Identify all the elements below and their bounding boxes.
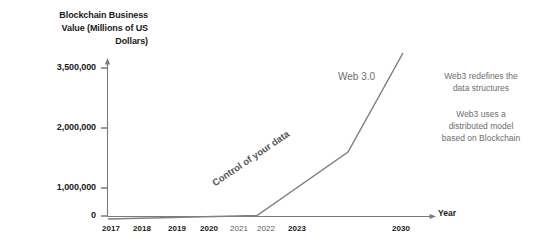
x-axis-title: Year <box>438 208 456 218</box>
chart-canvas: Blockchain Business Value (Millions of U… <box>0 0 540 247</box>
y-tick-label-3500000: 3,500,000 <box>18 62 96 72</box>
y-axis-ticks <box>101 68 107 216</box>
series-label-web30: Web 3.0 <box>338 71 375 82</box>
y-axis <box>105 58 110 217</box>
annotation-web3-distributed-model: Web3 uses a distributed model based on B… <box>425 108 537 144</box>
annotation-web3-redefines: Web3 redefines the data structures <box>425 70 537 94</box>
x-tick-label-2019: 2019 <box>168 224 186 233</box>
x-tick-label-2023: 2023 <box>288 224 306 233</box>
x-tick-label-2021: 2021 <box>230 224 248 233</box>
x-tick-label-2018: 2018 <box>133 224 151 233</box>
y-tick-label-2000000: 2,000,000 <box>18 122 96 132</box>
x-tick-label-2020: 2020 <box>200 224 218 233</box>
y-tick-label-0: 0 <box>18 210 96 220</box>
x-tick-label-2030: 2030 <box>392 224 410 233</box>
y-tick-label-1000000: 1,000,000 <box>18 182 96 192</box>
x-tick-label-2022: 2022 <box>257 224 275 233</box>
x-tick-label-2017: 2017 <box>102 224 120 233</box>
